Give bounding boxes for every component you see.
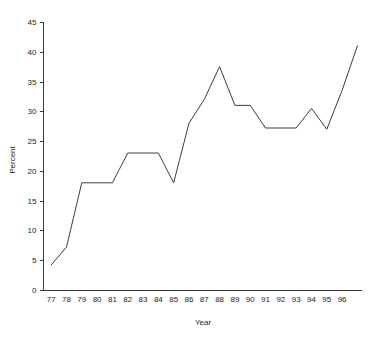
x-tick-label: 78 <box>62 295 71 304</box>
y-axis-title: Percent <box>8 145 17 173</box>
x-tick-label: 90 <box>246 295 255 304</box>
x-tick-label: 89 <box>230 295 239 304</box>
x-tick-label: 91 <box>261 295 270 304</box>
x-tick-label: 80 <box>93 295 102 304</box>
x-tick-label: 88 <box>215 295 224 304</box>
x-tick-label: 82 <box>123 295 132 304</box>
y-tick-label: 5 <box>32 256 37 265</box>
y-tick-label: 10 <box>28 226 37 235</box>
x-tick-label: 81 <box>108 295 117 304</box>
y-tick-label: 45 <box>28 18 37 27</box>
x-tick-label: 96 <box>338 295 347 304</box>
x-tick-label: 84 <box>154 295 163 304</box>
x-tick-label: 77 <box>47 295 56 304</box>
data-series-percent <box>51 46 357 265</box>
x-tick-label: 94 <box>307 295 316 304</box>
x-tick-label: 93 <box>292 295 301 304</box>
y-tick-label: 20 <box>28 167 37 176</box>
x-tick-label: 83 <box>139 295 148 304</box>
x-tick-label: 85 <box>169 295 178 304</box>
x-tick-label: 92 <box>276 295 285 304</box>
x-tick-label: 95 <box>322 295 331 304</box>
y-tick-label: 25 <box>28 137 37 146</box>
x-tick-label: 86 <box>185 295 194 304</box>
y-tick-label: 15 <box>28 197 37 206</box>
y-tick-label: 30 <box>28 107 37 116</box>
y-tick-label: 40 <box>28 48 37 57</box>
x-axis-title: Year <box>195 318 212 327</box>
x-axis-ticks: 7778798081828384858687888990919293949596 <box>47 295 347 304</box>
y-tick-label: 0 <box>32 286 37 295</box>
x-tick-label: 79 <box>77 295 86 304</box>
y-axis-ticks: 051015202530354045 <box>28 18 44 295</box>
y-tick-label: 35 <box>28 78 37 87</box>
chart-canvas: 051015202530354045 777879808182838485868… <box>0 0 369 338</box>
x-tick-label: 87 <box>200 295 209 304</box>
line-chart: 051015202530354045 777879808182838485868… <box>0 0 369 338</box>
